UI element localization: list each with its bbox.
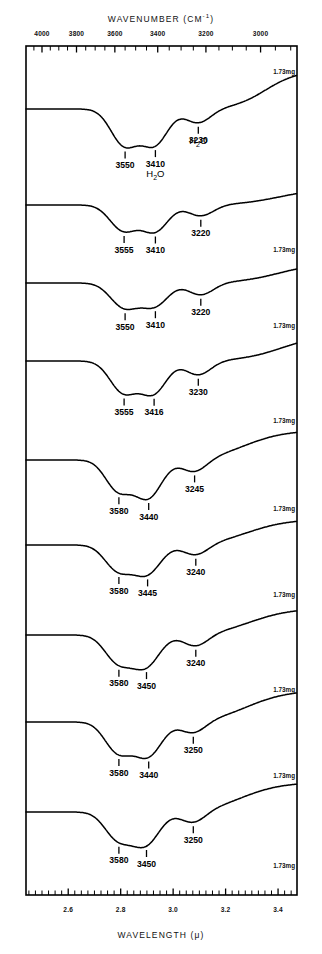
top-tick-label-3200: 3200	[198, 30, 213, 37]
spectrum-2-peak-label-3410: 3410	[146, 245, 165, 255]
spectrum-8-peak-label-3250: 3250	[184, 745, 203, 755]
spectrum-2-peak-label-3555: 3555	[115, 245, 134, 255]
spectrum-4-curve	[26, 343, 296, 396]
spectrum-2-curve	[26, 194, 296, 233]
spectrum-3-mass-label: 1.73mg	[273, 322, 295, 329]
spectrum-1-mass-label: 1.73mg	[273, 68, 295, 75]
top-tick-label-4000: 4000	[34, 30, 49, 37]
bottom-tick-label-2.8: 2.8	[116, 906, 126, 913]
spectrum-7-peak-label-3240: 3240	[186, 658, 205, 668]
spectrum-1-water-annotation-3410: H2O	[146, 168, 164, 181]
bottom-tick-label-3.4: 3.4	[273, 906, 283, 913]
spectrum-4-peak-label-3230: 3230	[189, 387, 208, 397]
spectrum-9-mass-label: 1.73mg	[273, 862, 295, 869]
top-tick-label-3600: 3600	[107, 30, 122, 37]
spectrum-8-curve	[26, 693, 296, 759]
spectrum-9-peak-label-3580: 3580	[109, 855, 128, 865]
ir-spectra-figure: WAVENUMBER (CM-1) WAVELENGTH (μ) 4000380…	[0, 0, 322, 954]
bottom-tick-label-3.0: 3.0	[168, 906, 178, 913]
spectrum-9-peak-label-3250: 3250	[184, 835, 203, 845]
spectrum-4-peak-label-3555: 3555	[115, 407, 134, 417]
spectrum-7-curve	[26, 611, 296, 670]
bottom-tick-label-2.6: 2.6	[63, 906, 73, 913]
spectrum-1-curve	[26, 76, 296, 148]
spectrum-4-peak-label-3416: 3416	[145, 407, 164, 417]
spectrum-5-curve	[26, 433, 296, 500]
spectrum-6-peak-label-3240: 3240	[186, 567, 205, 577]
spectrum-2-peak-label-3220: 3220	[191, 228, 210, 238]
spectrum-4-mass-label: 1.73mg	[273, 417, 295, 424]
spectra-curves	[26, 76, 296, 848]
spectrum-7-peak-label-3450: 3450	[137, 681, 156, 691]
spectrum-8-peak-label-3440: 3440	[139, 770, 158, 780]
spectrum-9-peak-label-3450: 3450	[137, 859, 156, 869]
spectrum-3-peak-label-3220: 3220	[191, 307, 210, 317]
spectrum-7-peak-label-3580: 3580	[109, 678, 128, 688]
spectrum-6-mass-label: 1.73mg	[273, 591, 295, 598]
spectrum-5-peak-label-3580: 3580	[109, 506, 128, 516]
spectrum-3-peak-label-3410: 3410	[146, 320, 165, 330]
spectrum-8-mass-label: 1.73mg	[273, 772, 295, 779]
bottom-tick-label-3.2: 3.2	[221, 906, 231, 913]
spectrum-7-mass-label: 1.73mg	[273, 686, 295, 693]
spectrum-3-peak-label-3550: 3550	[116, 322, 135, 332]
spectrum-3-curve	[26, 269, 296, 310]
spectra-plot-canvas	[0, 0, 322, 954]
spectrum-8-peak-label-3580: 3580	[109, 768, 128, 778]
spectrum-1-water-annotation-3230: H2O	[189, 135, 207, 148]
spectrum-2-mass-label: 1.73mg	[273, 246, 295, 253]
spectrum-1-peak-label-3410: 3410	[146, 159, 165, 169]
spectrum-6-peak-label-3580: 3580	[109, 586, 128, 596]
top-tick-label-3000: 3000	[253, 30, 268, 37]
spectrum-5-peak-label-3440: 3440	[139, 512, 158, 522]
spectrum-6-curve	[26, 522, 296, 577]
top-tick-label-3800: 3800	[69, 30, 84, 37]
spectrum-1-peak-label-3550: 3550	[116, 160, 135, 170]
spectrum-6-peak-label-3445: 3445	[138, 588, 157, 598]
top-tick-label-3400: 3400	[150, 30, 165, 37]
spectrum-5-peak-label-3245: 3245	[185, 484, 204, 494]
spectrum-5-mass-label: 1.73mg	[273, 505, 295, 512]
spectrum-9-curve	[26, 784, 296, 848]
